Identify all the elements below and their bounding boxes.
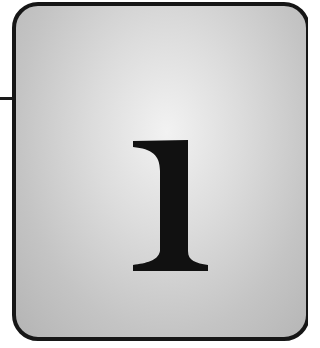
chapter-number: 1 xyxy=(130,139,210,272)
numeral-one-glyph xyxy=(130,139,210,272)
